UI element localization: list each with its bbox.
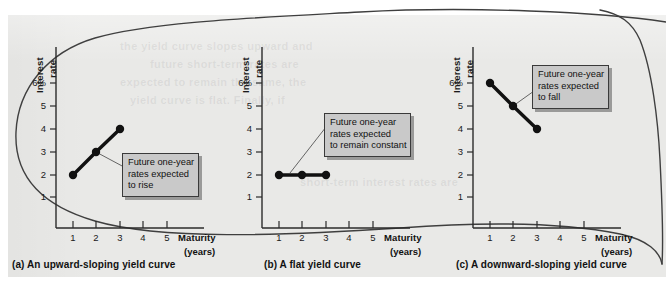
x-tick-label: 1	[272, 232, 286, 243]
y-tick-label: 2	[437, 169, 463, 180]
x-tick-label: 3	[530, 232, 544, 243]
y-tick-label: 3	[20, 146, 46, 157]
y-axis-label-line2: rate	[464, 60, 475, 78]
callout-line: to remain constant	[330, 140, 406, 152]
callout-line: Future one-year	[330, 117, 406, 129]
y-tick-label: 5	[20, 100, 46, 111]
x-tick-label: 2	[295, 232, 309, 243]
y-tick-label: 3	[226, 146, 252, 157]
panel-caption-c: (c) A downward-sloping yield curve	[456, 259, 627, 270]
x-tick-label: 3	[113, 232, 127, 243]
x-tick-label: 2	[506, 232, 520, 243]
y-tick-label: 1	[20, 191, 46, 202]
callout-upward: Future one-year rates expected to rise	[122, 153, 199, 197]
x-axis-units: (years)	[184, 246, 215, 257]
callout-line: rates expected	[128, 169, 194, 181]
panel-flat: Interest rate 6% 5 4 3 2 1 1 2 3 4 5 Mat…	[218, 15, 433, 277]
x-tick-label: 3	[319, 232, 333, 243]
x-tick-label: 5	[577, 232, 591, 243]
callout-line: to fall	[538, 92, 604, 104]
x-tick-label: 4	[553, 232, 567, 243]
callout-line: Future one-year	[538, 69, 604, 81]
callout-line: rates expected	[330, 129, 406, 141]
x-tick-label: 2	[89, 232, 103, 243]
panel-caption-b: (b) A flat yield curve	[264, 259, 361, 270]
y-tick-label: 4	[226, 123, 252, 134]
y-tick-label: 2	[20, 169, 46, 180]
y-tick-label: 5	[226, 100, 252, 111]
x-axis-units: (years)	[601, 246, 632, 257]
x-tick-label: 4	[136, 232, 150, 243]
y-tick-label: 4	[20, 123, 46, 134]
y-tick-label: 1	[437, 191, 463, 202]
y-axis-label-line2: rate	[253, 60, 264, 78]
y-axis-label-line2: rate	[47, 60, 58, 78]
y-tick-label: 1	[226, 191, 252, 202]
yield-curve-figure: the yield curve slopes upward and future…	[0, 0, 666, 284]
x-tick-label: 1	[483, 232, 497, 243]
callout-line: rates expected	[538, 81, 604, 93]
y-tick-label: 6%	[437, 77, 463, 88]
callout-downward: Future one-year rates expected to fall	[532, 65, 609, 109]
plot-area-c: Interest rate 6% 5 4 3 2 1 1 2 3 4 5 Mat…	[428, 15, 643, 277]
panel-caption-a: (a) An upward-sloping yield curve	[12, 259, 176, 270]
callout-flat: Future one-year rates expected to remain…	[324, 113, 411, 157]
x-axis-title: Maturity	[384, 232, 422, 243]
x-tick-label: 4	[342, 232, 356, 243]
callout-line: to rise	[128, 180, 194, 192]
y-tick-label: 6%	[20, 77, 46, 88]
y-tick-label: 4	[437, 123, 463, 134]
x-axis-units: (years)	[390, 246, 421, 257]
plot-area-b: Interest rate 6% 5 4 3 2 1 1 2 3 4 5 Mat…	[218, 15, 433, 277]
y-tick-label: 6%	[226, 77, 252, 88]
panel-downward-sloping: Interest rate 6% 5 4 3 2 1 1 2 3 4 5 Mat…	[428, 15, 643, 277]
x-tick-label: 1	[66, 232, 80, 243]
x-axis-title: Maturity	[595, 232, 633, 243]
x-axis-title: Maturity	[178, 232, 216, 243]
y-tick-label: 2	[226, 169, 252, 180]
y-tick-label: 3	[437, 146, 463, 157]
x-tick-label: 5	[160, 232, 174, 243]
x-tick-label: 5	[366, 232, 380, 243]
plot-area-a: Interest rate 6% 5 4 3 2 1 1 2 3 4 5 Mat…	[8, 15, 223, 277]
y-tick-label: 5	[437, 100, 463, 111]
callout-line: Future one-year	[128, 157, 194, 169]
panel-upward-sloping: Interest rate 6% 5 4 3 2 1 1 2 3 4 5 Mat…	[8, 15, 223, 277]
